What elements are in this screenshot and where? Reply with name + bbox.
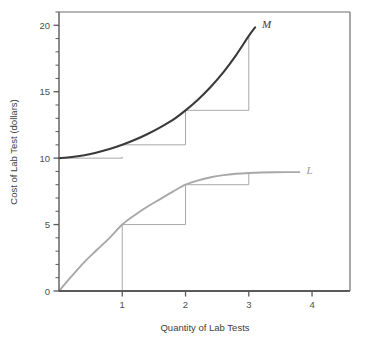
curve-label-l: L	[305, 164, 312, 176]
y-tick-label: 20	[39, 20, 50, 31]
y-axis-title: Cost of Lab Test (dollars)	[8, 99, 19, 204]
x-tick-label: 4	[309, 299, 314, 310]
x-tick-label: 3	[246, 299, 251, 310]
y-tick-label: 15	[39, 86, 50, 97]
curve-label-m: M	[261, 18, 272, 30]
x-axis-title: Quantity of Lab Tests	[160, 322, 249, 333]
chart-figure: 05101520 1234 LM Quantity of Lab Tests C…	[0, 0, 366, 337]
x-tick-label: 2	[183, 299, 188, 310]
x-tick-label: 1	[120, 299, 125, 310]
y-tick-label: 10	[39, 153, 50, 164]
y-tick-label: 0	[45, 286, 50, 297]
y-tick-label: 5	[45, 219, 50, 230]
lab-test-cost-chart: 05101520 1234 LM Quantity of Lab Tests C…	[0, 0, 366, 337]
